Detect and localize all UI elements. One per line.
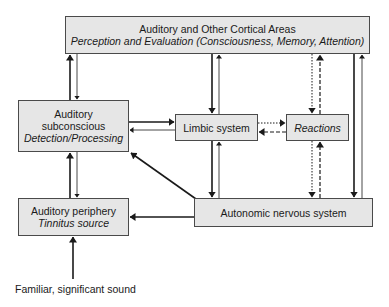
- node-autonomic-nervous-system: Autonomic nervous system: [194, 198, 373, 227]
- subconscious-line2: subconscious: [42, 120, 106, 132]
- periphery-subtitle: Tinnitus source: [38, 217, 109, 229]
- node-cortical-areas: Auditory and Other Cortical Areas Percep…: [65, 16, 370, 54]
- autonomic-title: Autonomic nervous system: [220, 207, 346, 219]
- subconscious-subtitle: Detection/Processing: [24, 132, 123, 144]
- arrow-autonomic-to-subconscious: [131, 153, 196, 199]
- reactions-subtitle: Reactions: [294, 122, 341, 134]
- node-auditory-subconscious: Auditory subconscious Detection/Processi…: [18, 100, 129, 152]
- subconscious-line1: Auditory: [54, 108, 93, 120]
- input-sound-label: Familiar, significant sound: [15, 283, 136, 295]
- node-reactions: Reactions: [286, 114, 349, 141]
- periphery-title: Auditory periphery: [31, 205, 116, 217]
- node-auditory-periphery: Auditory periphery Tinnitus source: [18, 198, 129, 236]
- cortex-subtitle: Perception and Evaluation (Consciousness…: [71, 35, 365, 47]
- node-limbic-system: Limbic system: [175, 114, 258, 141]
- cortex-title: Auditory and Other Cortical Areas: [139, 23, 295, 35]
- limbic-title: Limbic system: [183, 122, 250, 134]
